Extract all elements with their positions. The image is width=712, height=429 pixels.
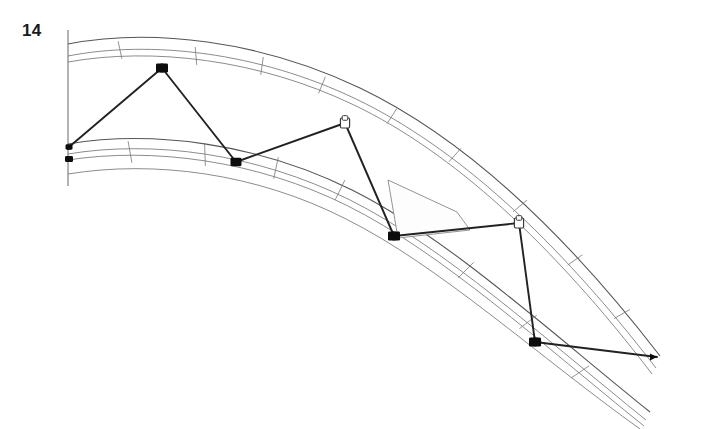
lower-chord-tick-3 [274,157,279,179]
upper-chord-tick-3 [261,57,264,75]
upper-chord-line-3 [68,56,652,374]
diagonal-6 [519,223,535,342]
lower-chord-tick-7 [519,315,536,329]
diagonal-3 [236,123,345,162]
lower-chord-line-4 [68,169,640,429]
upper-chord [68,37,660,374]
diagonal-bracing-members [69,68,657,357]
drawing-page: 14 [0,0,712,429]
lower-chord-tick-8 [571,366,589,378]
diagonal-1 [69,68,162,147]
diagonal-4 [345,123,394,236]
node-lower-2-hub [390,232,399,241]
upper-chord-tick-9 [614,310,630,319]
chord-splice-ticks [118,41,630,378]
lower-chord-tick-1 [128,141,132,163]
upper-chord-tick-7 [513,200,527,212]
node-left-lower-hub [66,144,71,149]
upper-chord-tick-2 [195,47,197,65]
node-upper-2-cap [342,116,348,121]
lower-chord [68,139,650,429]
lattice-truss-drawing [0,0,712,429]
upper-chord-tick-6 [449,148,461,161]
upper-chord-line-2 [68,49,656,368]
diagonal-7 [535,342,657,357]
lower-chord-line-2 [68,149,646,420]
diagonal-2 [162,68,236,162]
lower-chord-tick-2 [205,144,206,166]
node-lower-1-hub [232,158,240,166]
lower-chord-line-3 [68,155,644,426]
node-left-lower-b-hub [66,156,72,162]
node-upper-1-hub [158,64,167,73]
node-upper-3-cap [516,216,522,221]
node-lower-3-hub [531,338,540,347]
truss-joint-nodes [65,63,657,360]
node-right-end [650,354,657,361]
